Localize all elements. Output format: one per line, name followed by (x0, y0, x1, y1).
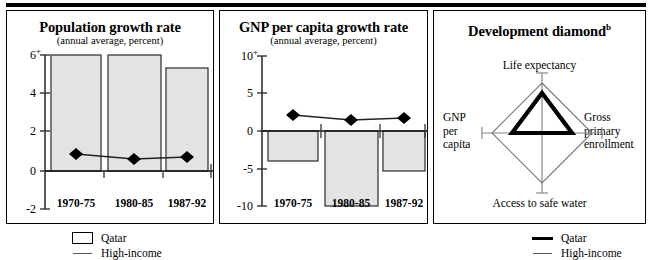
gnp-bar-1980-85 (325, 131, 378, 206)
legend-item-qatar: Qatar (70, 231, 162, 245)
population-xtick-3: 1987-92 (168, 197, 207, 209)
gnp-bar-1970-75 (268, 131, 318, 161)
legend-development-diamond: Qatar High-income (530, 231, 622, 260)
gnp-high-income-markers (286, 109, 411, 126)
gnp-xtick-3: 1987-92 (385, 197, 424, 209)
gnp-plot: 10 + 5 0 -5 -10 1970-75 1980-8 (220, 11, 427, 223)
legend-label-qatar-diamond: Qatar (561, 231, 587, 245)
legend-item-high-income-diamond: High-income (530, 246, 622, 260)
thick-line-swatch-icon (530, 237, 554, 240)
box-swatch-icon (70, 232, 94, 244)
legend-label-qatar: Qatar (101, 231, 127, 245)
thin-line-swatch-icon (70, 253, 94, 254)
gnp-ytick-neg10: -10 (237, 199, 253, 213)
gnp-xtick-1: 1970-75 (274, 197, 313, 209)
legend-bar-charts: Qatar High-income (70, 231, 162, 260)
figure-sheet: Population growth rate (annual average, … (0, 0, 648, 260)
gnp-ytick-5: 5 (247, 86, 253, 100)
legend-label-high-income: High-income (101, 246, 162, 260)
diamond-plot (434, 11, 645, 223)
population-ytick-6-plus: + (36, 46, 41, 56)
population-ytick-0: 0 (30, 164, 36, 178)
population-xtick-2: 1980-85 (115, 197, 154, 209)
legend-item-qatar-diamond: Qatar (530, 231, 622, 245)
gnp-bar-1987-92 (383, 131, 425, 171)
gnp-ytick-0: 0 (247, 124, 253, 138)
population-ytick-2: 2 (30, 124, 36, 138)
population-plot: 6 + 4 2 0 -2 19 (7, 11, 213, 223)
legend-item-high-income: High-income (70, 246, 162, 260)
gnp-ytick-10-plus: + (253, 47, 258, 57)
thin-line-swatch-icon-2 (530, 253, 554, 254)
top-rule-divider (6, 3, 646, 7)
panel-development-diamond: Development diamondb Life expectancy Acc… (433, 10, 646, 224)
population-ytick-4: 4 (30, 86, 36, 100)
panel-gnp-per-capita-growth-rate: GNP per capita growth rate (annual avera… (219, 10, 428, 224)
gnp-xtick-2: 1980-85 (332, 197, 371, 209)
panel-population-growth-rate: Population growth rate (annual average, … (6, 10, 214, 224)
gnp-ytick-neg5: -5 (243, 162, 253, 176)
legend-label-high-income-diamond: High-income (561, 246, 622, 260)
population-ytick-neg2: -2 (26, 202, 36, 216)
population-xtick-1: 1970-75 (57, 197, 96, 209)
gnp-ytick-10: 10 (241, 49, 253, 63)
